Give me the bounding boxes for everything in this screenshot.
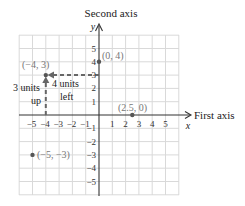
x-axis-title: First axis bbox=[194, 109, 235, 121]
svg-text:−5: −5 bbox=[86, 177, 96, 187]
coordinate-plane: Second axis y First axis x −5 −4 −3 −2 −… bbox=[0, 0, 245, 206]
svg-text:3: 3 bbox=[92, 70, 97, 80]
point-label-0-4: (0, 4) bbox=[102, 50, 124, 62]
svg-text:1: 1 bbox=[110, 119, 115, 129]
up-annotation-line2: up bbox=[31, 95, 41, 106]
svg-text:−2: −2 bbox=[86, 137, 96, 147]
y-axis-variable: y bbox=[90, 21, 96, 32]
svg-text:2: 2 bbox=[92, 83, 97, 93]
left-annotation-line1: 4 units bbox=[52, 78, 79, 89]
x-axis-variable: x bbox=[185, 120, 191, 131]
x-tick-labels: −5 −4 −3 −2 −1 1 2 3 4 5 bbox=[27, 119, 169, 129]
point-label-2.5-0: (2.5, 0) bbox=[118, 102, 147, 114]
svg-text:−3: −3 bbox=[54, 119, 64, 129]
svg-text:−1: −1 bbox=[86, 123, 96, 133]
y-axis-title: Second axis bbox=[85, 7, 138, 19]
point-2.5-0 bbox=[130, 113, 134, 117]
point-neg5-neg3 bbox=[30, 153, 34, 157]
svg-text:1: 1 bbox=[92, 97, 97, 107]
svg-text:2: 2 bbox=[123, 119, 128, 129]
svg-text:4: 4 bbox=[92, 57, 97, 67]
up-arrow-icon bbox=[42, 77, 49, 84]
point-0-4 bbox=[97, 60, 101, 64]
svg-text:3: 3 bbox=[137, 119, 142, 129]
svg-text:−2: −2 bbox=[67, 119, 77, 129]
point-label-neg5-neg3: (−5, −3) bbox=[37, 149, 70, 161]
left-annotation-line2: left bbox=[60, 91, 74, 102]
svg-text:5: 5 bbox=[163, 119, 168, 129]
svg-text:−4: −4 bbox=[40, 119, 50, 129]
svg-text:−5: −5 bbox=[27, 119, 37, 129]
svg-text:−4: −4 bbox=[86, 163, 96, 173]
svg-text:4: 4 bbox=[150, 119, 155, 129]
up-annotation-line1: 3 units bbox=[13, 82, 40, 93]
point-neg4-3 bbox=[44, 73, 48, 77]
svg-text:−3: −3 bbox=[86, 150, 96, 160]
point-label-neg4-3: (−4, 3) bbox=[22, 59, 49, 71]
svg-text:5: 5 bbox=[92, 44, 97, 54]
